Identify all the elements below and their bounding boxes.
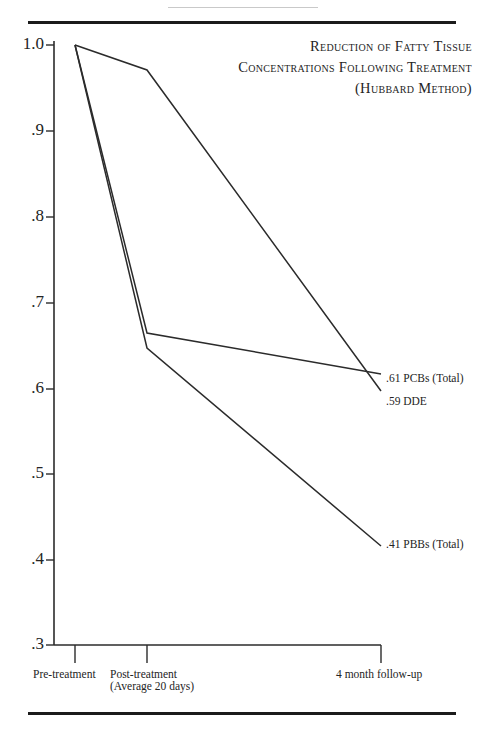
chart-axes [54,41,381,645]
x-axis-ticks [75,645,381,663]
series-end-label-dde: .59 DDE [386,395,427,407]
series-line-pcbs [75,45,381,391]
series-line-dde [75,45,381,374]
x-tick-label-follow-up-text: 4 month follow-up [336,668,422,680]
chart-page: Reduction of Fatty Tissue Concentrations… [0,0,486,739]
y-axis-ticks [46,45,54,645]
y-tick-label-1-0: 1.0 [4,34,44,54]
x-tick-label-post-treatment-sub: (Average 20 days) [110,680,194,692]
y-tick-label-0-8: .8 [4,206,44,226]
y-tick-label-0-7: .7 [4,292,44,312]
y-tick-label-0-4: .4 [4,549,44,569]
y-tick-label-0-3: .3 [4,634,44,654]
y-tick-label-0-6: .6 [4,378,44,398]
y-tick-label-0-9: .9 [4,120,44,140]
chart-series-lines [75,45,381,546]
series-line-pbbs [75,45,381,546]
y-tick-label-0-5: .5 [4,463,44,483]
x-tick-label-post-treatment-text: Post-treatment [110,668,177,680]
x-tick-label-post-treatment: Post-treatment (Average 20 days) [110,668,194,692]
series-end-label-pbbs: .41 PBBs (Total) [386,538,463,550]
series-end-label-pcbs: .61 PCBs (Total) [386,372,463,384]
line-chart-plot [0,0,486,739]
x-tick-label-pre-treatment: Pre-treatment [33,668,96,680]
x-tick-label-pre-treatment-text: Pre-treatment [33,668,96,680]
x-tick-label-follow-up: 4 month follow-up [336,668,422,680]
